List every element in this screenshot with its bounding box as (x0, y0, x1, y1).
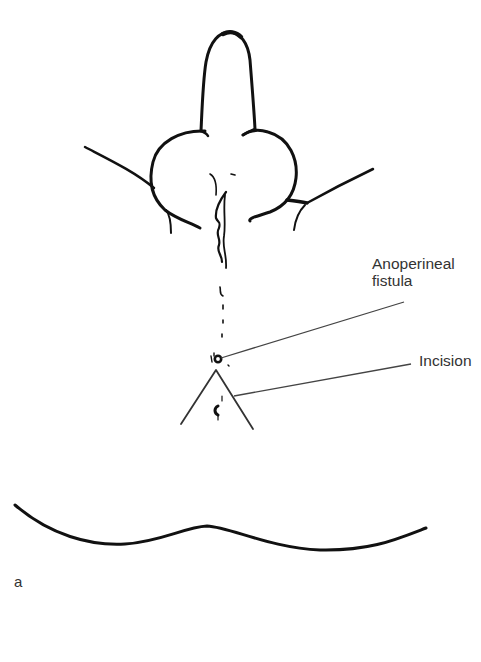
label-fistula-line1: Anoperineal (372, 255, 455, 272)
buttock-curve (15, 505, 426, 550)
diagram-illustration (0, 0, 481, 662)
penis-tip (223, 32, 241, 37)
label-incision: Incision (419, 352, 472, 369)
penis-outline (201, 32, 255, 131)
incision-triangle (181, 370, 253, 429)
leader-line-incision (234, 364, 411, 396)
incision-small-marks (218, 396, 222, 420)
raphe-dots (220, 287, 223, 337)
scrotum-right (243, 130, 296, 221)
label-anoperineal-fistula: Anoperineal fistula (372, 255, 455, 289)
fistula-opening (215, 356, 221, 362)
scrotum-left-inner (201, 131, 208, 136)
leader-line-fistula (221, 302, 404, 358)
anatomical-diagram: Anoperineal fistula Incision a (0, 0, 481, 662)
raphe-stream-right (224, 195, 227, 268)
scrotum-left (151, 131, 205, 228)
thigh-right-fold (287, 200, 307, 203)
incision-inner-mark (215, 406, 218, 415)
raphe-upper (210, 174, 216, 195)
thigh-right (307, 169, 373, 203)
panel-label: a (14, 573, 22, 590)
thigh-left (85, 147, 154, 188)
label-fistula-line2: fistula (372, 272, 455, 289)
thigh-right-lower (294, 205, 305, 230)
raphe-mark (231, 174, 235, 175)
